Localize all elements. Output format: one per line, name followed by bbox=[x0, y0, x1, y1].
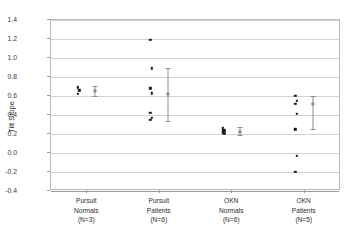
category-label-line: (N=6) bbox=[192, 215, 270, 225]
gridline bbox=[51, 134, 339, 135]
data-point bbox=[294, 128, 296, 130]
category-label-line: (N=3) bbox=[47, 215, 125, 225]
errorbar-cap-lower bbox=[165, 121, 170, 122]
y-axis-tick-label: 0.4 bbox=[0, 111, 17, 118]
data-point bbox=[149, 87, 151, 89]
x-axis-category-tick bbox=[304, 190, 305, 193]
plot-area bbox=[50, 19, 340, 190]
gridline bbox=[51, 20, 339, 21]
data-point bbox=[150, 92, 152, 94]
data-point bbox=[295, 113, 297, 115]
category-label-line: Normals bbox=[192, 206, 270, 216]
errorbar-cap-lower bbox=[93, 96, 98, 97]
y-axis-tick-label: 1.4 bbox=[0, 16, 17, 23]
y-axis-tick-label: 0.0 bbox=[0, 149, 17, 156]
y-axis-tick-label: -0.4 bbox=[0, 187, 17, 194]
y-axis-tick-label: 0.8 bbox=[0, 73, 17, 80]
mean-marker bbox=[94, 89, 97, 92]
y-axis-tick-mark bbox=[47, 190, 50, 191]
y-axis-tick-label: 0.2 bbox=[0, 130, 17, 137]
errorbar-cap-upper bbox=[238, 127, 243, 128]
data-point bbox=[223, 133, 225, 135]
x-axis-category-label: OKNNormals(N=6) bbox=[192, 196, 270, 225]
tilt-slope-scatter-chart: Tilt Slope 1.41.21.00.80.60.40.20.0-0.2-… bbox=[0, 0, 361, 234]
data-point bbox=[150, 67, 152, 69]
x-axis-category-tick bbox=[159, 190, 160, 193]
x-axis-category-label: OKNPatients(N=5) bbox=[265, 196, 343, 225]
category-label-line: Patients bbox=[120, 206, 198, 216]
y-axis-tick-label: 1.2 bbox=[0, 35, 17, 42]
errorbar-cap-upper bbox=[93, 86, 98, 87]
x-axis-category-label: PursuitNormals(N=3) bbox=[47, 196, 125, 225]
mean-marker bbox=[239, 130, 242, 133]
category-label-line: Normals bbox=[47, 206, 125, 216]
errorbar-line bbox=[312, 96, 313, 129]
y-axis-tick-label: 1.0 bbox=[0, 54, 17, 61]
category-label-line: OKN bbox=[265, 196, 343, 206]
x-axis-category-tick bbox=[86, 190, 87, 193]
x-axis-category-tick bbox=[231, 190, 232, 193]
data-point bbox=[294, 102, 296, 104]
data-point bbox=[294, 95, 296, 97]
errorbar-cap-upper bbox=[310, 96, 315, 97]
errorbar-cap-lower bbox=[310, 129, 315, 130]
data-point bbox=[295, 155, 297, 157]
category-label-line: OKN bbox=[192, 196, 270, 206]
gridline bbox=[51, 58, 339, 59]
gridline bbox=[51, 77, 339, 78]
category-label-line: Pursuit bbox=[120, 196, 198, 206]
category-label-line: Pursuit bbox=[47, 196, 125, 206]
data-point bbox=[149, 112, 151, 114]
category-label-line: (N=6) bbox=[120, 215, 198, 225]
data-point bbox=[77, 93, 79, 95]
data-point bbox=[294, 171, 296, 173]
x-axis-category-label: PursuitPatients(N=6) bbox=[120, 196, 198, 225]
mean-marker bbox=[166, 93, 169, 96]
y-axis-tick-label: -0.2 bbox=[0, 168, 17, 175]
data-point bbox=[78, 89, 80, 91]
data-point bbox=[149, 119, 151, 121]
errorbar-cap-upper bbox=[165, 68, 170, 69]
data-point bbox=[149, 39, 151, 41]
mean-marker bbox=[311, 102, 314, 105]
errorbar-cap-lower bbox=[238, 135, 243, 136]
gridline bbox=[51, 191, 339, 192]
y-axis-tick-label: 0.6 bbox=[0, 92, 17, 99]
category-label-line: (N=5) bbox=[265, 215, 343, 225]
gridline bbox=[51, 39, 339, 40]
category-label-line: Patients bbox=[265, 206, 343, 216]
